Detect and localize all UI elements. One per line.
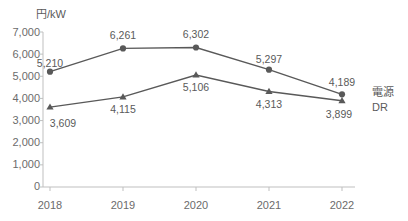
data-point-power (266, 67, 272, 73)
data-point-power (120, 45, 126, 51)
data-label-power: 6,302 (173, 28, 219, 40)
data-point-power (339, 91, 345, 97)
legend-item-power: 電源 (372, 83, 394, 99)
data-label-dr: 3,609 (40, 117, 86, 129)
data-point-power (193, 44, 199, 50)
data-point-dr (192, 71, 199, 77)
data-label-power: 6,261 (100, 29, 146, 41)
data-label-power: 5,297 (246, 53, 292, 65)
legend-item-dr: DR (372, 101, 388, 113)
data-label-power: 5,210 (27, 57, 73, 69)
data-point-power (47, 69, 53, 75)
data-label-dr: 5,106 (173, 81, 219, 93)
data-label-dr: 3,899 (316, 108, 362, 120)
line-chart: 円/kW 7,000 6,000 5,000 4,000 3,000 2,000… (0, 0, 408, 221)
data-label-dr: 4,313 (246, 98, 292, 110)
data-label-power: 4,189 (319, 76, 365, 88)
data-label-dr: 4,115 (100, 103, 146, 115)
